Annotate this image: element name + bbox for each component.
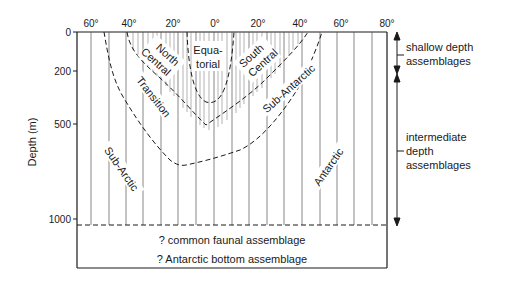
intermediate-label-2: depth: [406, 145, 434, 157]
x-tick-20n: 20°: [165, 18, 180, 29]
sub-arctic-label: Sub-Arctic: [102, 145, 141, 194]
y-tick-500: 500: [54, 119, 71, 130]
x-tick-80s: 80°: [379, 18, 394, 29]
x-tick-60s: 60°: [333, 18, 348, 29]
depth-zonation-diagram: 0 200 500 1000 Depth (m) 60° 40° 20° 0° …: [0, 0, 506, 292]
y-tick-1000: 1000: [49, 214, 72, 225]
x-tick-40n: 40°: [121, 18, 136, 29]
intermediate-label-3: assemblages: [406, 159, 471, 171]
intermediate-label-1: intermediate: [406, 131, 467, 143]
common-faunal-label: ? common faunal assemblage: [159, 234, 306, 246]
x-tick-20s: 20°: [250, 18, 265, 29]
equatorial-label-1: Equa-: [193, 44, 223, 56]
right-annotations: shallow depth assemblages intermediate d…: [406, 41, 473, 171]
bottom-assemblages: ? common faunal assemblage ? Antarctic b…: [157, 234, 307, 265]
depth-range-arrows: [394, 32, 404, 226]
y-axis: 0 200 500 1000 Depth (m): [26, 27, 77, 225]
antarctic-bottom-label: ? Antarctic bottom assemblage: [157, 253, 307, 265]
y-axis-title: Depth (m): [26, 118, 38, 167]
x-tick-0: 0°: [210, 18, 220, 29]
y-tick-0: 0: [65, 27, 71, 38]
x-tick-40s: 40°: [292, 18, 307, 29]
shallow-label-1: shallow depth: [406, 41, 473, 53]
shallow-label-2: assemblages: [406, 55, 471, 67]
sub-antarctic-label: Sub-Antarctic: [260, 62, 317, 115]
antarctic-label: Antarctic: [311, 145, 346, 187]
equatorial-label-2: torial: [196, 58, 220, 70]
y-tick-200: 200: [54, 66, 71, 77]
x-tick-60n: 60°: [83, 18, 98, 29]
x-axis: 60° 40° 20° 0° 20° 40° 60° 80°: [83, 18, 394, 29]
